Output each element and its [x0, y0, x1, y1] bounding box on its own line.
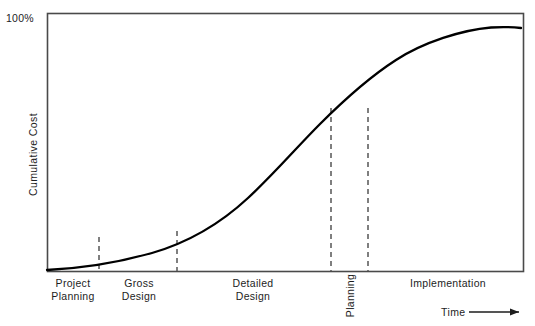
plot-frame: [48, 14, 524, 272]
phase-label-detailed-design: Detailed Design: [200, 277, 306, 303]
phase-label-project-planning: Project Planning: [47, 277, 99, 303]
x-axis-title: Time: [441, 306, 466, 319]
arrow-right-icon: [469, 309, 519, 316]
y-axis-max-tick-label: 100%: [6, 12, 34, 25]
phase-label-gross-design: Gross Design: [106, 277, 172, 303]
phase-label-planning: Planning: [344, 264, 357, 326]
cumulative-cost-chart: 100% Cumulative Cost Project Planning Gr…: [0, 0, 535, 326]
phase-label-implementation: Implementation: [380, 277, 516, 290]
y-axis-title: Cumulative Cost: [27, 100, 40, 210]
cumulative-cost-curve: [47, 27, 521, 270]
